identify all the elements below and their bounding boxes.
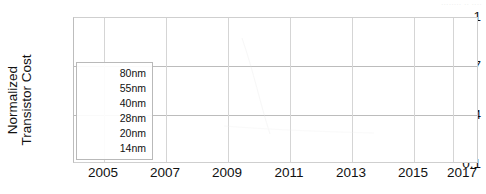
y-axis-title-line-1: Normalized [6,66,20,134]
legend-label: 20nm [120,128,146,139]
legend-label: 40nm [120,98,146,109]
y-axis-title: Normalized Transistor Cost [0,0,40,194]
legend-label: 55nm [120,83,146,94]
x-tick-label-2017: 2017 [432,166,486,180]
x-tick-label-2005: 2005 [73,166,133,180]
legend-item-55nm[interactable]: 55nm [77,81,146,96]
cropped-text-fragment: ........ .. .... [441,0,482,5]
y-axis-title-line-2: Transistor Cost [20,54,34,145]
gridline-vertical-2015 [414,18,415,162]
legend-item-28nm[interactable]: 28nm [77,111,146,126]
legend-label: 80nm [120,68,146,79]
legend-item-14nm[interactable]: 14nm [77,141,146,156]
x-tick-label-2013: 2013 [321,166,381,180]
gridline-vertical-2007 [166,18,167,162]
x-tick-label-2007: 2007 [135,166,195,180]
x-tick-label-2011: 2011 [259,166,319,180]
gridline-vertical-2017 [453,18,454,162]
legend-label: 28nm [120,113,146,124]
legend-label: 14nm [120,143,146,154]
transistor-cost-chart: ........ .. .... Normalized Transistor C… [0,0,486,194]
legend-item-20nm[interactable]: 20nm [77,126,146,141]
gridline-vertical-2009 [228,18,229,162]
x-tick-label-2009: 2009 [197,166,257,180]
legend-item-40nm[interactable]: 40nm [77,96,146,111]
gridline-vertical-2011 [290,18,291,162]
legend-item-80nm[interactable]: 80nm [77,66,146,81]
gridline-vertical-2013 [352,18,353,162]
legend: 80nm 55nm 40nm 28nm 20nm 14nm [76,62,153,160]
